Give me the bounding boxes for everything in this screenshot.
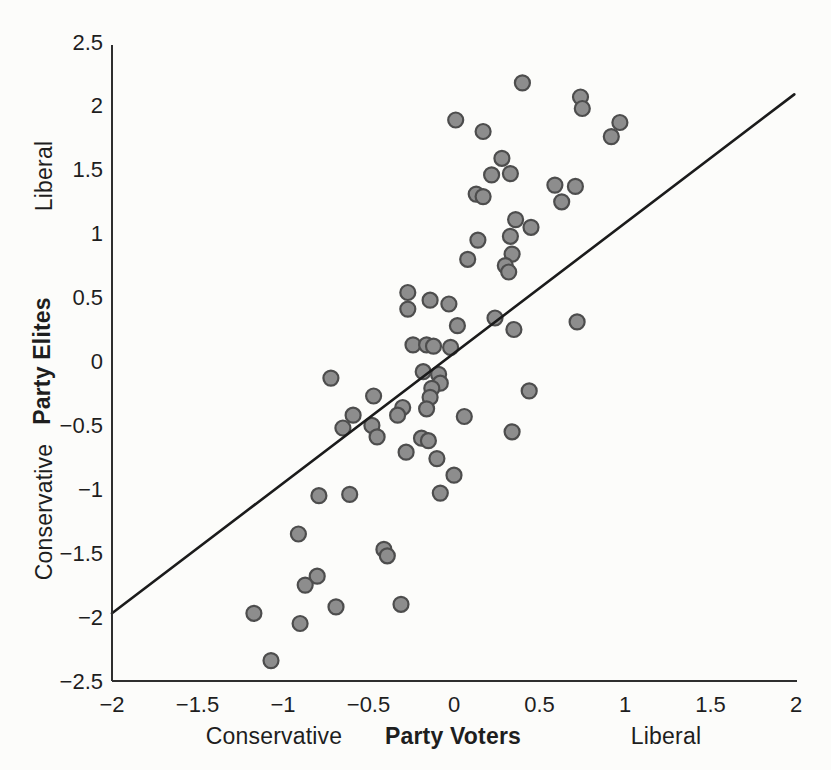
- x-tick-label: −2: [99, 692, 124, 717]
- data-point: [470, 233, 485, 248]
- data-point: [547, 178, 562, 193]
- y-tick-label: −1: [78, 477, 103, 502]
- data-point: [447, 468, 462, 483]
- data-point: [508, 212, 523, 227]
- data-point: [524, 220, 539, 235]
- y-tick-label: −2.5: [60, 669, 103, 694]
- y-tick-label: −1.5: [60, 541, 103, 566]
- data-point: [429, 451, 444, 466]
- x-axis-title: Party Voters: [385, 723, 521, 750]
- x-tick-label: 1.5: [695, 692, 726, 717]
- data-point: [501, 265, 516, 280]
- data-point: [370, 429, 385, 444]
- data-point: [612, 115, 627, 130]
- data-point: [323, 371, 338, 386]
- party-elites-vs-voters-scatter: 2.521.510.50−0.5−1−1.5−2−2.5−2−1.5−1−0.5…: [0, 0, 831, 770]
- data-point: [366, 389, 381, 404]
- data-point: [329, 599, 344, 614]
- data-point: [570, 314, 585, 329]
- data-point: [399, 445, 414, 460]
- data-point: [421, 433, 436, 448]
- data-point: [390, 408, 405, 423]
- y-axis-title: Party Elites: [29, 297, 56, 425]
- data-point: [433, 486, 448, 501]
- data-point: [342, 487, 357, 502]
- data-point: [293, 616, 308, 631]
- data-point: [503, 229, 518, 244]
- x-tick-label: −1: [270, 692, 295, 717]
- y-tick-label: −0.5: [60, 413, 103, 438]
- data-point: [505, 424, 520, 439]
- x-tick-label: 0: [448, 692, 460, 717]
- data-point: [291, 527, 306, 542]
- x-tick-label: 0.5: [524, 692, 555, 717]
- data-point: [476, 189, 491, 204]
- data-point: [450, 318, 465, 333]
- y-tick-label: 2: [91, 93, 103, 118]
- x-axis-end-label-liberal: Liberal: [631, 723, 701, 750]
- data-point: [476, 124, 491, 139]
- x-tick-label: −0.5: [347, 692, 390, 717]
- data-point: [264, 653, 279, 668]
- y-tick-label: −2: [78, 605, 103, 630]
- data-point: [400, 302, 415, 317]
- scatter-figure: 2.521.510.50−0.5−1−1.5−2−2.5−2−1.5−1−0.5…: [0, 0, 831, 770]
- data-point: [426, 339, 441, 354]
- data-point: [394, 597, 409, 612]
- x-axis-end-label-conservative: Conservative: [206, 723, 343, 750]
- data-point: [311, 488, 326, 503]
- data-point: [419, 401, 434, 416]
- data-point: [484, 167, 499, 182]
- data-point: [503, 166, 518, 181]
- y-tick-label: 0.5: [72, 285, 103, 310]
- y-tick-label: 1.5: [72, 157, 103, 182]
- data-point: [423, 293, 438, 308]
- x-tick-label: 1: [619, 692, 631, 717]
- data-point: [460, 252, 475, 267]
- data-point: [494, 151, 509, 166]
- regression-line: [112, 94, 794, 613]
- y-tick-label: 1: [91, 221, 103, 246]
- x-tick-label: −1.5: [176, 692, 219, 717]
- y-axis-end-label-liberal: Liberal: [31, 141, 58, 211]
- x-tick-label: 2: [790, 692, 802, 717]
- data-point: [448, 113, 463, 128]
- y-tick-label: 0: [91, 349, 103, 374]
- data-point: [515, 75, 530, 90]
- data-point: [506, 322, 521, 337]
- data-point: [400, 285, 415, 300]
- data-point: [568, 179, 583, 194]
- data-point: [554, 194, 569, 209]
- data-point: [457, 409, 472, 424]
- y-axis-end-label-conservative: Conservative: [31, 444, 58, 581]
- y-tick-label: 2.5: [72, 30, 103, 55]
- data-point: [298, 578, 313, 593]
- data-point: [246, 606, 261, 621]
- data-point: [380, 548, 395, 563]
- data-point: [604, 129, 619, 144]
- data-point: [441, 297, 456, 312]
- data-point: [575, 101, 590, 116]
- data-point: [346, 408, 361, 423]
- data-point: [522, 383, 537, 398]
